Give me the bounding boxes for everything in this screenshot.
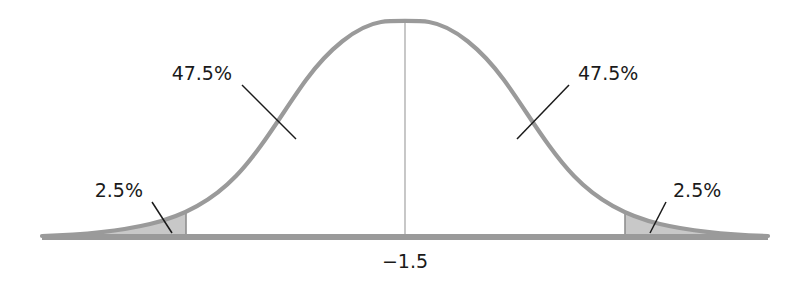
normal-distribution-figure: 47.5% 47.5% 2.5% 2.5% −1.5 bbox=[0, 0, 807, 286]
baseline-axis bbox=[42, 234, 768, 240]
right-tail-percent-label: 2.5% bbox=[673, 179, 721, 201]
right-body-percent-label: 47.5% bbox=[578, 62, 638, 84]
axis-center-tick-label: −1.5 bbox=[382, 250, 428, 272]
left-body-percent-label: 47.5% bbox=[172, 62, 232, 84]
left-tail-percent-label: 2.5% bbox=[95, 179, 143, 201]
